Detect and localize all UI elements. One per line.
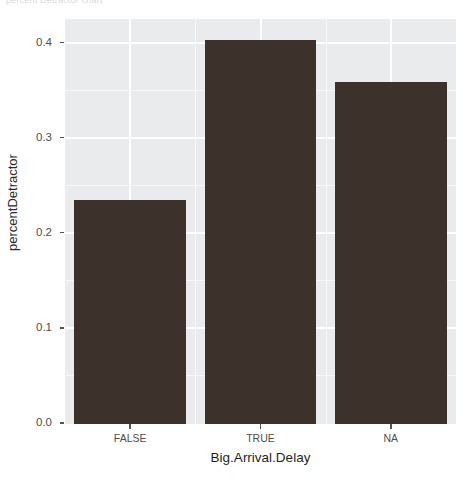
bar-false <box>74 200 185 424</box>
y-axis-title: percentDetractor <box>5 123 20 283</box>
y-tick-label: 0.1 <box>8 322 52 334</box>
y-tick-mark <box>60 137 64 139</box>
y-tick-mark <box>60 42 64 44</box>
y-tick-label: 0.4 <box>8 37 52 49</box>
y-tick-mark <box>60 327 64 329</box>
plot-panel <box>65 19 456 424</box>
gridline-vertical-minor <box>195 19 196 424</box>
y-tick-mark <box>60 232 64 234</box>
bar-chart: percent Detractor chart 0.40.30.20.10.0 … <box>0 0 476 494</box>
bar-true <box>205 40 316 424</box>
x-tick-label: NA <box>341 432 441 444</box>
x-tick-mark <box>390 424 392 429</box>
y-tick-label: 0.0 <box>8 417 52 429</box>
x-axis-title: Big.Arrival.Delay <box>65 450 456 465</box>
y-tick-mark <box>60 422 64 424</box>
page-title: percent Detractor chart <box>6 0 103 5</box>
x-tick-mark <box>260 424 262 429</box>
x-tick-label: FALSE <box>80 432 180 444</box>
gridline-vertical-minor <box>326 19 327 424</box>
bar-na <box>335 82 446 424</box>
x-tick-label: TRUE <box>211 432 311 444</box>
x-tick-mark <box>129 424 131 429</box>
